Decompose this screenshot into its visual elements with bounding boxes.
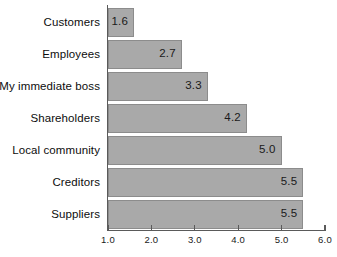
bar-row-suppliers: 5.5 xyxy=(108,198,325,230)
category-label-shareholders: Shareholders xyxy=(0,102,104,134)
bar-employees: 2.7 xyxy=(108,40,182,69)
category-label-suppliers: Suppliers xyxy=(0,198,104,230)
x-tick-label: 4.0 xyxy=(231,234,245,245)
bar-row-creditors: 5.5 xyxy=(108,166,325,198)
bar-rows: 1.6 2.7 3.3 4.2 5.0 xyxy=(108,6,325,230)
bar-row-employees: 2.7 xyxy=(108,38,325,70)
x-tick-label: 5.0 xyxy=(275,234,289,245)
x-tick-label: 6.0 xyxy=(318,234,332,245)
category-label-customers: Customers xyxy=(0,6,104,38)
bar-value-my-immediate-boss: 3.3 xyxy=(185,80,207,92)
bar-suppliers: 5.5 xyxy=(108,200,303,229)
plot-area: 1.6 2.7 3.3 4.2 5.0 xyxy=(108,6,325,230)
bar-row-customers: 1.6 xyxy=(108,6,325,38)
bar-value-employees: 2.7 xyxy=(159,48,181,60)
x-tick-label: 1.0 xyxy=(101,234,115,245)
category-label-employees: Employees xyxy=(0,38,104,70)
category-label-my-immediate-boss: My immediate boss xyxy=(0,70,104,102)
bar-value-shareholders: 4.2 xyxy=(224,112,246,124)
x-axis-line xyxy=(107,230,326,231)
x-tick-label: 3.0 xyxy=(188,234,202,245)
bar-value-creditors: 5.5 xyxy=(281,176,303,188)
bar-value-customers: 1.6 xyxy=(111,16,133,28)
bar-creditors: 5.5 xyxy=(108,168,303,197)
bar-value-local-community: 5.0 xyxy=(259,144,281,156)
bar-local-community: 5.0 xyxy=(108,136,282,165)
bar-row-local-community: 5.0 xyxy=(108,134,325,166)
bar-row-shareholders: 4.2 xyxy=(108,102,325,134)
category-label-creditors: Creditors xyxy=(0,166,104,198)
category-axis-labels: Customers Employees My immediate boss Sh… xyxy=(0,6,104,230)
bar-row-my-immediate-boss: 3.3 xyxy=(108,70,325,102)
category-label-local-community: Local community xyxy=(0,134,104,166)
bar-chart: Customers Employees My immediate boss Sh… xyxy=(0,0,337,257)
bar-customers: 1.6 xyxy=(108,8,134,37)
x-tick-label: 2.0 xyxy=(144,234,158,245)
bar-shareholders: 4.2 xyxy=(108,104,247,133)
bar-my-immediate-boss: 3.3 xyxy=(108,72,208,101)
bar-value-suppliers: 5.5 xyxy=(281,208,303,220)
